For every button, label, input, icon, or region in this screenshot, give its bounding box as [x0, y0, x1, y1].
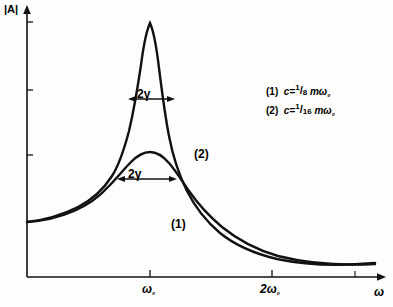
- curve-2-path: [27, 23, 375, 265]
- curve-1-path: [27, 152, 375, 265]
- x-tick-label-2omega0: 2ω₀: [260, 283, 280, 297]
- resonance-amplitude-chart: |A| ω ω₀ 2ω₀ 2γ 2γ (2) (1) (1) c=1/8 mω₀…: [0, 0, 393, 307]
- legend-omega-1: ω: [319, 86, 327, 97]
- legend-m-1: m: [310, 86, 319, 97]
- omega-subscript-2: ₀: [277, 288, 280, 297]
- annotation-2gamma-lower: 2γ: [128, 168, 141, 180]
- legend-fraction-1: 1/8: [295, 81, 307, 99]
- legend-index-2: (2): [266, 105, 278, 116]
- annotation-2gamma-upper: 2γ: [137, 88, 150, 100]
- legend-m-2: m: [314, 105, 323, 116]
- legend-ceq-1: c=: [284, 86, 295, 97]
- y-axis-arrowhead: [23, 5, 31, 14]
- x-axis-label: ω: [374, 286, 384, 298]
- legend-ceq-2: c=: [284, 105, 295, 116]
- legend-index-1: (1): [266, 86, 278, 97]
- two-prefix: 2: [260, 282, 267, 296]
- legend-row-2: (2) c=1/16 mω₀: [266, 101, 335, 120]
- omega-subscript: ₀: [152, 288, 155, 297]
- curve-label-1: (1): [171, 218, 186, 230]
- legend: (1) c=1/8 mω₀ (2) c=1/16 mω₀: [266, 82, 335, 120]
- gamma-upper-arrow-left: [128, 96, 136, 102]
- omega-glyph: ω: [142, 282, 152, 296]
- gamma-lower-arrow-right: [169, 176, 177, 182]
- gamma-upper-arrow-right: [167, 96, 175, 102]
- x-axis-arrowhead: [377, 273, 386, 281]
- legend-denominator-1: 8: [303, 88, 307, 97]
- legend-omega-sub-2: ₀: [332, 109, 335, 118]
- legend-row-1: (1) c=1/8 mω₀: [266, 82, 335, 101]
- x-tick-label-omega0: ω₀: [142, 283, 155, 297]
- curve-label-2: (2): [194, 148, 209, 160]
- omega-glyph-2: ω: [267, 282, 277, 296]
- legend-omega-2: ω: [323, 105, 331, 116]
- y-axis-label: |A|: [4, 4, 18, 15]
- legend-omega-sub-1: ₀: [327, 90, 330, 99]
- legend-denominator-2: 16: [303, 107, 312, 116]
- legend-fraction-2: 1/16: [295, 100, 311, 118]
